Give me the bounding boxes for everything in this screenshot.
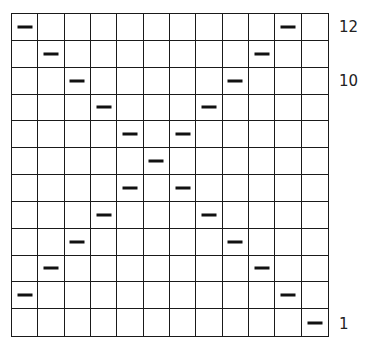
purl-dash-icon	[96, 106, 111, 109]
purl-dash-icon	[254, 267, 269, 270]
grid-cell	[275, 175, 301, 202]
purl-dash-icon	[228, 240, 243, 243]
grid-cell	[249, 41, 275, 68]
grid-cell	[223, 282, 249, 309]
grid-cell	[12, 175, 38, 202]
grid-cell	[65, 68, 91, 95]
purl-dash-icon	[175, 133, 190, 136]
purl-dash-icon	[201, 213, 216, 216]
grid-cell	[249, 202, 275, 229]
grid-cell	[12, 14, 38, 41]
grid-cell	[170, 175, 196, 202]
purl-dash-icon	[96, 213, 111, 216]
purl-dash-icon	[122, 186, 137, 189]
grid-cell	[144, 229, 170, 256]
grid-cell	[170, 41, 196, 68]
grid-cell	[144, 256, 170, 283]
grid-cell	[144, 41, 170, 68]
purl-dash-icon	[228, 79, 243, 82]
grid-cell	[196, 202, 222, 229]
grid-cell	[302, 68, 328, 95]
purl-dash-icon	[43, 52, 58, 55]
grid-cell	[91, 14, 117, 41]
grid-cell	[65, 14, 91, 41]
purl-dash-icon	[17, 294, 32, 297]
purl-dash-icon	[70, 79, 85, 82]
grid-cell	[302, 309, 328, 336]
grid-cell	[12, 121, 38, 148]
row-number-label: 10	[339, 72, 358, 90]
grid-cell	[196, 148, 222, 175]
grid-cell	[91, 68, 117, 95]
grid-cell	[170, 256, 196, 283]
grid-cell	[38, 229, 64, 256]
grid-cell	[65, 202, 91, 229]
grid-cell	[275, 256, 301, 283]
grid-cell	[275, 202, 301, 229]
grid-cell	[91, 256, 117, 283]
grid-cell	[117, 202, 143, 229]
grid-cell	[91, 95, 117, 122]
grid-cell	[170, 229, 196, 256]
grid-cell	[65, 309, 91, 336]
grid-cell	[302, 256, 328, 283]
purl-dash-icon	[17, 25, 32, 28]
grid-cell	[144, 121, 170, 148]
grid-cell	[38, 256, 64, 283]
grid-cell	[249, 14, 275, 41]
grid-cell	[249, 282, 275, 309]
grid-cell	[117, 14, 143, 41]
grid-cell	[144, 14, 170, 41]
grid-cell	[302, 175, 328, 202]
grid-cell	[65, 256, 91, 283]
purl-dash-icon	[43, 267, 58, 270]
grid-cell	[38, 68, 64, 95]
grid-cell	[275, 229, 301, 256]
grid-cell	[38, 121, 64, 148]
grid-cell	[249, 256, 275, 283]
purl-dash-icon	[254, 52, 269, 55]
grid-cell	[196, 121, 222, 148]
grid-cell	[12, 202, 38, 229]
grid-cell	[38, 148, 64, 175]
grid-cell	[249, 229, 275, 256]
grid-cell	[223, 121, 249, 148]
grid-cell	[65, 41, 91, 68]
grid-cell	[223, 309, 249, 336]
purl-dash-icon	[175, 186, 190, 189]
grid-cell	[38, 202, 64, 229]
grid-cell	[91, 229, 117, 256]
grid-cell	[170, 68, 196, 95]
grid-cell	[144, 175, 170, 202]
grid-cell	[196, 229, 222, 256]
grid-cell	[12, 229, 38, 256]
grid-cell	[170, 202, 196, 229]
grid-cell	[249, 175, 275, 202]
grid-cell	[65, 121, 91, 148]
grid-cell	[91, 41, 117, 68]
grid-cell	[170, 309, 196, 336]
grid-cell	[117, 256, 143, 283]
grid-cell	[117, 68, 143, 95]
grid-cell	[302, 282, 328, 309]
grid-cell	[170, 121, 196, 148]
grid-cell	[275, 68, 301, 95]
grid-cell	[91, 282, 117, 309]
grid-cell	[196, 14, 222, 41]
grid-cell	[275, 14, 301, 41]
grid-cell	[38, 309, 64, 336]
grid-cell	[275, 41, 301, 68]
purl-dash-icon	[149, 160, 164, 163]
grid-cell	[275, 148, 301, 175]
grid-cell	[196, 95, 222, 122]
grid-cell	[117, 41, 143, 68]
grid-cell	[223, 175, 249, 202]
purl-dash-icon	[122, 133, 137, 136]
grid-cell	[91, 121, 117, 148]
grid-cell	[65, 95, 91, 122]
purl-dash-icon	[201, 106, 216, 109]
grid-cell	[223, 14, 249, 41]
purl-dash-icon	[70, 240, 85, 243]
grid-cell	[223, 202, 249, 229]
grid-cell	[170, 148, 196, 175]
